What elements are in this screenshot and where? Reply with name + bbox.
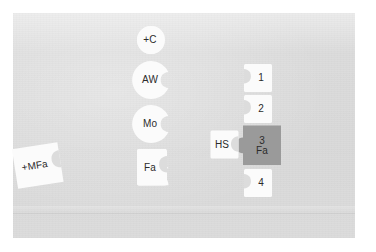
surface-seam-line [13, 213, 355, 214]
tile-num-2-shape [243, 94, 279, 124]
tile-hs-shape [210, 130, 244, 159]
tile-num-1[interactable]: 1 [243, 63, 279, 93]
tile-hs[interactable]: HS [210, 130, 244, 159]
tile-aw[interactable]: AW [131, 60, 177, 100]
tile-mo-shape [131, 104, 177, 144]
tile-mo[interactable]: Mo [131, 104, 177, 144]
diagram-canvas: +C AW Mo Fa 1 [0, 0, 376, 252]
tile-plus-mfa-shape [11, 140, 72, 194]
surface-highlight [13, 206, 355, 212]
tile-plus-c[interactable]: +C [136, 25, 170, 55]
tile-aw-shape [131, 60, 177, 100]
tile-num-1-shape [243, 63, 279, 93]
photo-background [13, 13, 355, 238]
tile-fa-shape [135, 148, 181, 188]
tile-fa[interactable]: Fa [135, 148, 181, 188]
tile-num-4[interactable]: 4 [243, 168, 279, 198]
tile-plus-mfa[interactable]: +MFa [11, 140, 72, 194]
tile-plus-c-shape [136, 25, 170, 55]
tile-num-4-shape [243, 168, 279, 198]
tile-num-2[interactable]: 2 [243, 94, 279, 124]
